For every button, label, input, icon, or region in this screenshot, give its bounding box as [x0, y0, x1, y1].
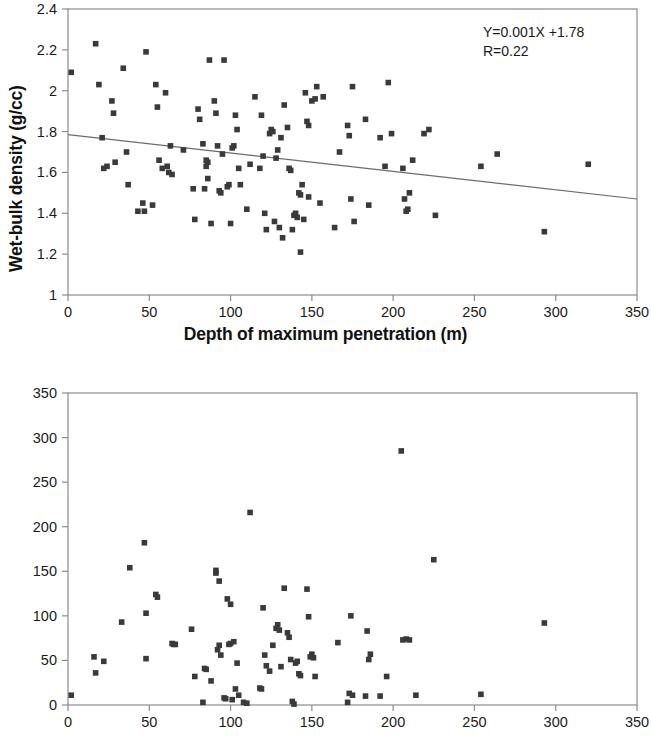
data-point: [109, 98, 115, 104]
data-point: [259, 112, 265, 118]
data-point: [264, 663, 270, 669]
scatter-plot-wet-bulk-density: 05010015020025030035011.21.41.61.822.22.…: [0, 0, 651, 370]
x-tick-label: 50: [141, 304, 157, 320]
data-point: [400, 166, 406, 172]
plot-frame: [68, 393, 637, 705]
data-point: [155, 594, 161, 600]
x-tick-label: 50: [141, 714, 157, 730]
x-tick-label: 0: [64, 714, 72, 730]
data-point: [181, 147, 187, 153]
data-point: [351, 219, 357, 225]
data-point: [228, 601, 234, 607]
data-point: [200, 141, 206, 147]
data-point: [298, 249, 304, 255]
data-point: [192, 674, 198, 680]
data-point: [259, 686, 265, 692]
data-point: [288, 657, 294, 663]
data-point: [264, 227, 270, 233]
data-point: [262, 652, 268, 658]
y-tick-label: 2: [49, 83, 57, 99]
data-point: [143, 49, 149, 55]
data-point: [384, 674, 390, 680]
data-point: [247, 161, 253, 167]
data-point: [159, 166, 165, 172]
y-tick-label: 50: [41, 652, 57, 668]
data-point: [143, 656, 149, 662]
data-point: [156, 157, 162, 163]
data-point: [320, 94, 326, 100]
data-point: [277, 627, 283, 633]
data-point: [298, 192, 304, 198]
data-point: [542, 229, 548, 235]
data-point: [317, 200, 323, 206]
y-tick-label: 1.8: [37, 124, 57, 140]
data-point: [127, 565, 133, 571]
data-point: [478, 692, 484, 698]
data-point: [346, 133, 352, 139]
data-point: [345, 123, 351, 129]
data-point: [208, 678, 214, 684]
data-point: [213, 570, 219, 576]
data-point: [212, 98, 218, 104]
data-point: [231, 639, 237, 645]
data-point: [257, 166, 263, 172]
x-tick-label: 200: [381, 714, 405, 730]
x-tick-label: 150: [300, 304, 324, 320]
data-point: [306, 123, 312, 129]
data-point: [195, 106, 201, 112]
x-tick-label: 0: [64, 304, 72, 320]
data-point: [190, 186, 196, 192]
data-point: [301, 217, 307, 223]
data-point: [281, 585, 287, 591]
data-point: [229, 697, 235, 703]
data-point: [262, 210, 268, 216]
data-point: [275, 622, 281, 628]
data-point: [125, 182, 131, 188]
data-point: [213, 110, 219, 116]
trend-line: [68, 135, 637, 199]
data-point: [368, 651, 374, 657]
data-point: [153, 82, 159, 88]
y-tick-label: 0: [49, 697, 57, 713]
data-point: [221, 57, 227, 63]
chart-shear-strength: 0501001502002503003500501001502002503003…: [0, 370, 651, 739]
y-tick-label: 300: [33, 430, 57, 446]
data-point: [218, 190, 224, 196]
data-point: [277, 225, 283, 231]
data-point: [337, 149, 343, 155]
data-point: [304, 586, 310, 592]
x-tick-label: 350: [625, 304, 649, 320]
scatter-plot-shear-strength: 0501001502002503003500501001502002503003…: [0, 370, 651, 739]
data-point: [260, 153, 266, 159]
data-point: [433, 213, 439, 219]
data-point: [112, 159, 118, 165]
data-point: [234, 660, 240, 666]
data-point: [377, 693, 383, 699]
data-point: [402, 196, 408, 202]
data-point: [299, 182, 305, 188]
data-point: [218, 652, 224, 658]
data-point: [93, 41, 99, 47]
data-point: [290, 227, 296, 233]
data-point: [294, 215, 300, 221]
data-point: [348, 613, 354, 619]
x-tick-label: 350: [625, 714, 649, 730]
y-tick-label: 1.2: [37, 246, 57, 262]
data-point: [168, 143, 174, 149]
data-point: [200, 700, 206, 706]
data-point-group: [68, 448, 547, 707]
x-tick-label: 250: [462, 304, 486, 320]
data-point: [278, 135, 284, 141]
data-point: [226, 182, 232, 188]
data-point: [205, 176, 211, 182]
data-point: [142, 540, 148, 546]
data-point: [140, 200, 146, 206]
data-point: [312, 674, 318, 680]
y-tick-label: 1.6: [37, 164, 57, 180]
data-point: [93, 670, 99, 676]
data-point: [405, 206, 411, 212]
y-tick-label: 1: [49, 287, 57, 303]
data-point: [124, 149, 130, 155]
data-point: [285, 125, 291, 131]
data-point: [96, 82, 102, 88]
